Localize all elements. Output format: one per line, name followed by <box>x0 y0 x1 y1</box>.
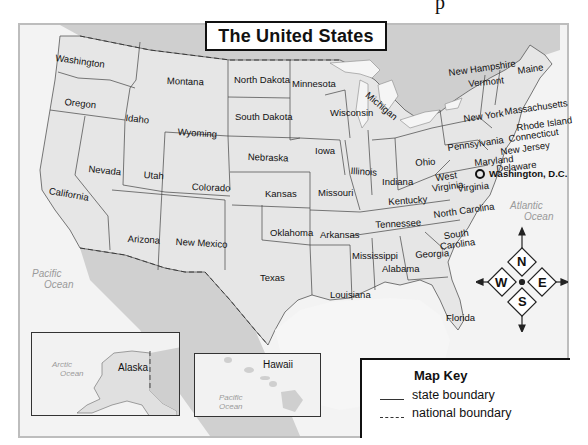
pacific-inset-label: Pacific Ocean <box>219 394 243 412</box>
state-label-wyoming: Wyoming <box>177 127 217 139</box>
state-label-illinois: Illinois <box>350 166 377 177</box>
state-label-indiana: Indiana <box>382 177 413 187</box>
alaska-inset: Arctic Ocean Alaska <box>31 332 180 416</box>
state-label-tennessee: Tennessee <box>375 218 421 230</box>
state-label-minnesota: Minnesota <box>292 79 336 89</box>
alaska-label: Alaska <box>118 363 148 373</box>
state-label-oklahoma: Oklahoma <box>270 228 313 238</box>
compass-rose: N S W E <box>476 226 568 332</box>
ocean-word: Ocean <box>510 211 553 222</box>
state-label-montana: Montana <box>167 76 204 87</box>
state-label-utah: Utah <box>143 170 164 181</box>
capital-name: Washington, D.C. <box>489 168 567 179</box>
compass-icon <box>476 226 568 332</box>
ocean-word: Ocean <box>219 403 243 412</box>
state-label-iowa: Iowa <box>315 146 335 156</box>
state-label-kansas: Kansas <box>265 189 297 199</box>
compass-east: E <box>538 275 547 290</box>
state-label-wisconsin: Wisconsin <box>330 108 373 118</box>
key-label: national boundary <box>412 406 511 420</box>
map-key: Map Key state boundary national boundary <box>360 358 570 438</box>
state-label-arkansas: Arkansas <box>320 230 360 240</box>
hawaii-islands <box>195 354 321 417</box>
compass-west: W <box>495 275 507 290</box>
map-title: The United States <box>205 21 387 51</box>
state-label-texas: Texas <box>260 273 285 283</box>
state-label-mississippi: Mississippi <box>352 251 398 261</box>
state-label-west-virginia: WestVirginia <box>430 170 464 193</box>
compass-south: S <box>518 294 527 309</box>
state-label-kentucky: Kentucky <box>388 194 428 206</box>
state-label-new-mexico: New Mexico <box>176 237 228 249</box>
state-label-north-dakota: North Dakota <box>234 75 290 85</box>
atlantic-word: Atlantic <box>510 200 553 211</box>
pacific-ocean-label: Pacific Ocean <box>32 268 73 290</box>
state-label-idaho: Idaho <box>125 113 150 125</box>
ocean-word: Ocean <box>52 370 84 379</box>
state-label-nebraska: Nebraska <box>248 152 289 163</box>
state-label-alabama: Alabama <box>382 264 420 274</box>
state-label-florida: Florida <box>446 313 475 323</box>
key-item-national-boundary: national boundary <box>380 406 511 420</box>
compass-north: N <box>517 254 526 269</box>
pacific-word: Pacific <box>32 268 73 279</box>
state-label-ohio: Ohio <box>415 157 436 168</box>
atlantic-ocean-label: Atlantic Ocean <box>510 200 553 222</box>
capital-label: Washington, D.C. <box>487 168 567 179</box>
hawaii-label: Hawaii <box>263 360 293 370</box>
state-label-arizona: Arizona <box>128 234 161 245</box>
state-label-missouri: Missouri <box>318 188 353 198</box>
state-label-louisiana: Louisiana <box>330 290 371 300</box>
dashed-line-icon <box>380 417 404 418</box>
state-label-colorado: Colorado <box>192 182 231 193</box>
ocean-word: Ocean <box>32 279 73 290</box>
solid-line-icon <box>380 399 404 400</box>
map-key-title: Map Key <box>414 368 467 383</box>
key-item-state-boundary: state boundary <box>380 388 495 402</box>
hawaii-inset: Hawaii Pacific Ocean <box>194 353 321 417</box>
arctic-ocean-label: Arctic Ocean <box>52 361 84 379</box>
key-label: state boundary <box>412 388 495 402</box>
state-label-south-dakota: South Dakota <box>235 112 293 122</box>
